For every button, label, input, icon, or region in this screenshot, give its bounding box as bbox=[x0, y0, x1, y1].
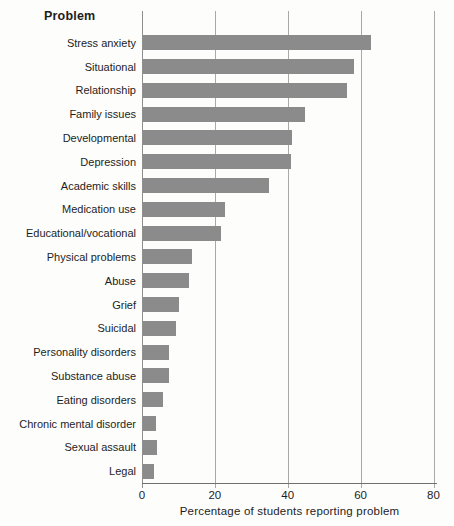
category-label: Medication use bbox=[0, 201, 136, 217]
category-label: Depression bbox=[0, 154, 136, 170]
category-label: Grief bbox=[0, 297, 136, 313]
category-label: Relationship bbox=[0, 82, 136, 98]
bar bbox=[143, 226, 221, 241]
bar bbox=[143, 130, 292, 145]
category-label: Suicidal bbox=[0, 320, 136, 336]
bar bbox=[143, 464, 154, 479]
bar bbox=[143, 297, 179, 312]
bar bbox=[143, 202, 225, 217]
bar bbox=[143, 368, 169, 383]
x-tick-label: 20 bbox=[195, 489, 235, 502]
x-tick-label: 0 bbox=[122, 489, 162, 502]
category-label: Sexual assault bbox=[0, 439, 136, 455]
bar bbox=[143, 83, 347, 98]
bar bbox=[143, 416, 156, 431]
bar bbox=[143, 178, 269, 193]
category-label: Physical problems bbox=[0, 249, 136, 265]
bar bbox=[143, 273, 189, 288]
category-label: Situational bbox=[0, 59, 136, 75]
gridline bbox=[361, 11, 362, 488]
category-label: Chronic mental disorder bbox=[0, 416, 136, 432]
bar bbox=[143, 321, 176, 336]
category-label: Developmental bbox=[0, 130, 136, 146]
x-axis-title: Percentage of students reporting problem bbox=[142, 505, 437, 517]
x-tick-label: 60 bbox=[341, 489, 381, 502]
chart-title: Problem bbox=[44, 9, 95, 23]
bar bbox=[143, 154, 291, 169]
category-label: Educational/vocational bbox=[0, 225, 136, 241]
bar bbox=[143, 35, 371, 50]
category-label: Stress anxiety bbox=[0, 35, 136, 51]
x-tick-label: 40 bbox=[268, 489, 308, 502]
bar bbox=[143, 107, 305, 122]
bar-chart-figure: Problem Percentage of students reporting… bbox=[0, 0, 454, 526]
category-label: Abuse bbox=[0, 273, 136, 289]
bar bbox=[143, 249, 192, 264]
category-label: Eating disorders bbox=[0, 392, 136, 408]
category-label: Academic skills bbox=[0, 178, 136, 194]
bar bbox=[143, 392, 163, 407]
bar bbox=[143, 345, 169, 360]
gridline bbox=[434, 11, 435, 488]
category-label: Family issues bbox=[0, 106, 136, 122]
x-tick-label: 80 bbox=[414, 489, 454, 502]
bar bbox=[143, 440, 157, 455]
category-label: Legal bbox=[0, 463, 136, 479]
category-label: Substance abuse bbox=[0, 368, 136, 384]
x-axis-line bbox=[142, 483, 437, 484]
category-label: Personality disorders bbox=[0, 344, 136, 360]
bar bbox=[143, 59, 354, 74]
